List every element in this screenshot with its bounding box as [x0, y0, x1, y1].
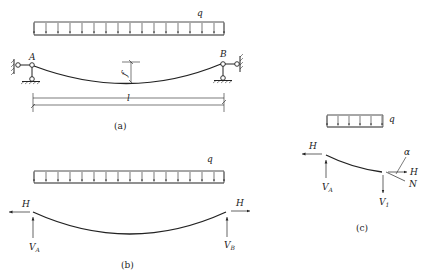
tension-label-n: N	[408, 179, 418, 189]
support-label-a: A	[28, 52, 36, 62]
left-v-label-c: VA	[322, 182, 334, 193]
figure-c: q H VA α H N V1 (c)	[302, 114, 418, 233]
cable-b	[33, 212, 226, 234]
left-h-label-b: H	[21, 199, 30, 209]
distributed-load-b	[34, 171, 224, 183]
right-v-label-b: VB	[224, 240, 236, 251]
distributed-load-a	[34, 22, 224, 35]
pin-support-left	[11, 59, 40, 84]
cable-segment-c	[326, 155, 382, 172]
span-label-l: l	[127, 93, 130, 103]
pin-support-right	[213, 54, 243, 83]
caption-b: (b)	[121, 260, 134, 270]
caption-c: (c)	[356, 223, 368, 233]
load-label-q-a: q	[197, 8, 203, 18]
angle-label-alpha: α	[404, 147, 410, 157]
load-label-q-c: q	[389, 114, 395, 124]
left-v-label-b: VA	[29, 242, 41, 253]
cable-diagram: q A	[0, 0, 425, 275]
figure-a: q A	[11, 8, 243, 131]
distributed-load-c	[327, 115, 383, 127]
sag-label-f: f	[119, 69, 130, 78]
right-h-label-b: H	[235, 198, 244, 208]
v1-label: V1	[379, 197, 389, 208]
caption-a: (a)	[114, 121, 126, 131]
figure-b: q H VA H VB (b)	[9, 154, 250, 270]
left-h-label-c: H	[308, 141, 317, 151]
tension-line-n	[386, 172, 405, 181]
sag-dimension	[122, 60, 140, 84]
support-label-b: B	[219, 49, 227, 59]
load-label-q-b: q	[207, 154, 213, 164]
angle-indicator-line	[396, 157, 406, 174]
right-h-label-c: H	[409, 167, 418, 177]
